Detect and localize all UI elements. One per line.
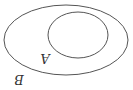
set-b-ellipse (4, 5, 128, 75)
set-b-label: B (14, 72, 25, 87)
set-a-label: A (40, 51, 50, 66)
set-a-ellipse (48, 12, 108, 58)
venn-diagram: A B (0, 0, 133, 90)
